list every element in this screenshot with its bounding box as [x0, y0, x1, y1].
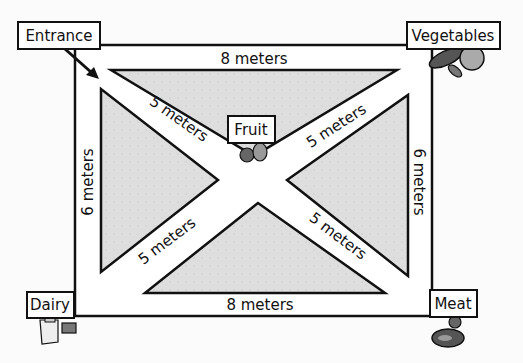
meat-icon: [432, 316, 464, 347]
market-diagram: 8 meters 8 meters 6 meters 6 meters 5 me…: [0, 0, 523, 363]
svg-text:Entrance: Entrance: [25, 27, 92, 45]
entrance-sign: Entrance: [18, 22, 100, 49]
right-measurement: 6 meters: [410, 148, 428, 215]
left-measurement: 6 meters: [79, 148, 97, 215]
svg-text:Vegetables: Vegetables: [412, 27, 495, 45]
svg-text:Fruit: Fruit: [234, 121, 267, 139]
meat-sign: Meat: [430, 290, 477, 317]
svg-text:Meat: Meat: [434, 295, 471, 313]
vegetables-sign: Vegetables: [407, 22, 500, 49]
top-measurement: 8 meters: [220, 50, 287, 68]
dairy-icon: [40, 316, 76, 344]
dairy-sign: Dairy: [27, 292, 74, 318]
fruit-sign: Fruit: [228, 116, 275, 143]
bottom-measurement: 8 meters: [226, 296, 293, 314]
svg-text:Dairy: Dairy: [30, 296, 70, 314]
